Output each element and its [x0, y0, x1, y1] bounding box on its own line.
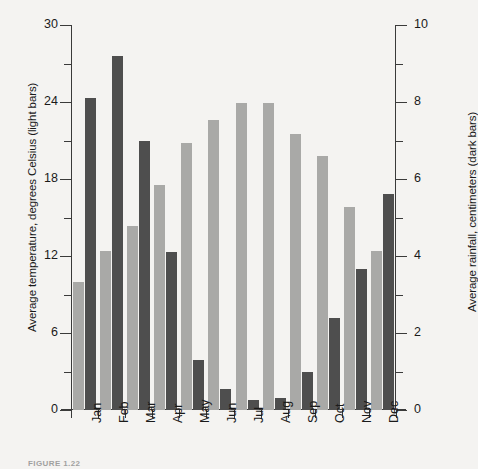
x-axis-label-apr: Apr: [172, 404, 185, 423]
bar-group: [261, 25, 288, 410]
plot-area: 0612182430 0246810 JanFebMarAprMayJunJul…: [71, 25, 396, 409]
y-axis-left-tick-label: 6: [18, 326, 58, 339]
bar-rainfall: [85, 98, 96, 410]
bar-temperature: [127, 226, 138, 410]
bar-group: [288, 25, 315, 410]
y-axis-left-tick-label: 0: [18, 403, 58, 416]
y-axis-left-major-tick: [60, 25, 71, 26]
x-axis-label-aug: Aug: [280, 401, 293, 423]
x-axis-label-nov: Nov: [361, 401, 374, 423]
x-axis-label-jul: Jul: [253, 407, 266, 423]
x-axis-label-may: May: [199, 399, 212, 423]
y-axis-left-major-tick: [60, 179, 71, 180]
y-axis-left-major-tick: [60, 256, 71, 257]
figure-caption: FIGURE 1.22: [28, 459, 80, 468]
y-axis-left-minor-tick: [64, 218, 71, 219]
x-axis-label-jun: Jun: [226, 403, 239, 423]
bar-group: [152, 25, 179, 410]
y-axis-right-tick-label: 4: [414, 249, 454, 262]
y-axis-left-minor-tick: [64, 295, 71, 296]
x-axis-label-jan: Jan: [91, 403, 104, 423]
y-axis-right-minor-tick: [396, 141, 403, 142]
x-axis-label-dec: Dec: [388, 401, 401, 423]
y-axis-left-major-tick: [60, 102, 71, 103]
bar-rainfall: [139, 141, 150, 411]
y-axis-right-minor-tick: [396, 295, 403, 296]
y-axis-left-tick-label: 24: [18, 95, 58, 108]
bar-group: [98, 25, 125, 410]
bar-group: [342, 25, 369, 410]
y-axis-right-tick-label: 2: [414, 326, 454, 339]
bar-rainfall: [356, 269, 367, 410]
y-axis-right-tick-label: 0: [414, 403, 454, 416]
bar-temperature: [317, 156, 328, 410]
bar-rainfall: [112, 56, 123, 410]
x-axis-label-mar: Mar: [145, 401, 158, 423]
bar-group: [179, 25, 206, 410]
y-axis-right-major-tick: [396, 179, 407, 180]
bar-temperature: [344, 207, 355, 410]
bar-temperature: [73, 282, 84, 410]
bar-temperature: [236, 103, 247, 410]
y-axis-left-tick-label: 12: [18, 249, 58, 262]
x-axis-label-sep: Sep: [307, 401, 320, 423]
y-axis-left-major-tick: [60, 333, 71, 334]
bar-series-group: [71, 25, 396, 410]
y-axis-left-major-tick: [60, 410, 71, 411]
bar-temperature: [290, 134, 301, 410]
y-axis-left-tick-label: 30: [18, 18, 58, 31]
x-axis-label-feb: Feb: [118, 401, 131, 423]
x-axis-label-oct: Oct: [334, 404, 347, 423]
bar-temperature: [371, 251, 382, 410]
bar-temperature: [181, 143, 192, 410]
bar-group: [369, 25, 396, 410]
y-axis-left-minor-tick: [64, 64, 71, 65]
bar-group: [125, 25, 152, 410]
y-axis-right-minor-tick: [396, 218, 403, 219]
bar-rainfall: [329, 318, 340, 410]
y-axis-right-minor-tick: [396, 64, 403, 65]
y-axis-left-tick-label: 18: [18, 172, 58, 185]
y-axis-right-tick-label: 10: [414, 18, 454, 31]
y-axis-right-tick-label: 6: [414, 172, 454, 185]
y-axis-right-major-tick: [396, 25, 407, 26]
y-axis-right-minor-tick: [396, 372, 403, 373]
bar-group: [206, 25, 233, 410]
bar-group: [315, 25, 342, 410]
bar-group: [71, 25, 98, 410]
bar-temperature: [263, 103, 274, 410]
y-axis-left-minor-tick: [64, 141, 71, 142]
bar-rainfall: [166, 252, 177, 410]
y-axis-right-major-tick: [396, 256, 407, 257]
bar-temperature: [208, 120, 219, 410]
bar-group: [234, 25, 261, 410]
y-axis-right-major-tick: [396, 333, 407, 334]
y-axis-right-title: Average rainfall, centimeters (dark bars…: [466, 92, 478, 332]
x-axis-tick: [71, 409, 72, 418]
y-axis-left-title: Average temperature, degrees Celsius (li…: [26, 92, 38, 332]
y-axis-left-minor-tick: [64, 372, 71, 373]
bar-rainfall: [383, 194, 394, 410]
bar-temperature: [100, 251, 111, 410]
y-axis-right-major-tick: [396, 102, 407, 103]
bar-temperature: [154, 185, 165, 410]
y-axis-right-tick-label: 8: [414, 95, 454, 108]
